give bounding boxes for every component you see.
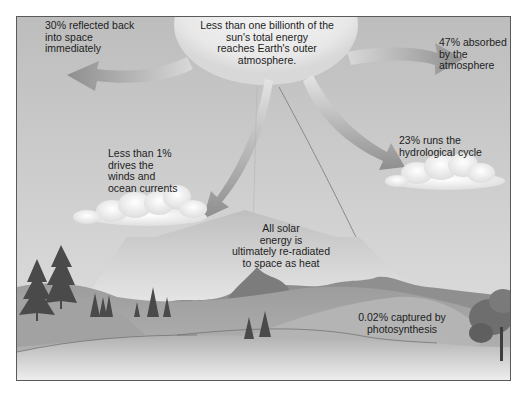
winds-label: Less than 1% drives the winds and ocean … xyxy=(108,148,198,194)
sun-label: Less than one billionth of the sun's tot… xyxy=(197,20,337,66)
reradiated-label: All solar energy is ultimately re-radiat… xyxy=(221,223,341,269)
reflected-label: 30% reflected back into space immediatel… xyxy=(45,20,145,55)
hydrological-label: 23% runs the hydrological cycle xyxy=(399,135,499,158)
diagram-frame: Less than one billionth of the sun's tot… xyxy=(16,16,511,381)
photosynthesis-label: 0.02% captured by photosynthesis xyxy=(347,312,457,335)
absorbed-label: 47% absorbed by the atmosphere xyxy=(439,37,511,72)
